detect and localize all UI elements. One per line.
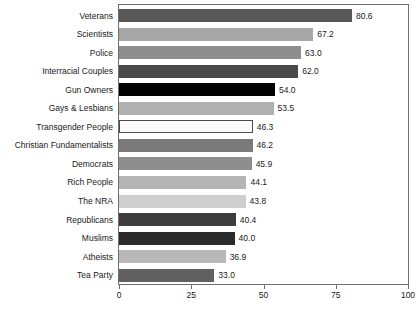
x-axis-tick-label: 25 [187, 291, 196, 300]
bar [119, 213, 236, 226]
bar-value-label: 36.9 [230, 253, 247, 262]
category-label: Veterans [0, 12, 113, 21]
bar [119, 83, 275, 96]
category-label: Democrats [0, 160, 113, 169]
bar-value-label: 46.2 [257, 141, 274, 150]
category-label: Christian Fundamentalists [0, 141, 113, 150]
category-label: Police [0, 49, 113, 58]
bar-value-label: 80.6 [356, 12, 373, 21]
category-label: The NRA [0, 197, 113, 206]
bar [119, 176, 246, 189]
category-label: Transgender People [0, 123, 113, 132]
bar-value-label: 62.0 [302, 67, 319, 76]
bar [119, 46, 301, 59]
bar-chart: VeteransScientistsPoliceInterracial Coup… [0, 0, 419, 311]
bar [119, 102, 274, 115]
category-label: Republicans [0, 216, 113, 225]
category-label: Tea Party [0, 271, 113, 280]
x-axis-tick [264, 285, 265, 289]
x-axis-tick-label: 50 [259, 291, 268, 300]
category-label: Gun Owners [0, 86, 113, 95]
x-axis-tick-label: 75 [331, 291, 340, 300]
bar [119, 28, 313, 41]
x-axis-tick [119, 285, 120, 289]
category-label: Rich People [0, 178, 113, 187]
bar-value-label: 40.0 [239, 234, 256, 243]
x-axis-tick-label: 100 [401, 291, 415, 300]
x-axis: 0255075100 [118, 285, 409, 311]
bar-value-label: 43.8 [250, 197, 267, 206]
category-label: Muslims [0, 234, 113, 243]
bar-value-label: 63.0 [305, 49, 322, 58]
category-label: Gays & Lesbians [0, 104, 113, 113]
category-label: Atheists [0, 253, 113, 262]
bar [119, 232, 235, 245]
x-axis-tick [408, 285, 409, 289]
bar [119, 195, 246, 208]
x-axis-tick [336, 285, 337, 289]
bar-value-label: 46.3 [257, 123, 274, 132]
bar-value-label: 54.0 [279, 86, 296, 95]
bar-value-label: 45.9 [256, 160, 273, 169]
bar-value-label: 67.2 [317, 30, 334, 39]
bar [119, 139, 253, 152]
bar [119, 120, 253, 133]
bar-value-label: 33.0 [218, 271, 235, 280]
x-axis-tick-label: 0 [117, 291, 122, 300]
bar-value-label: 40.4 [240, 216, 257, 225]
bar [119, 65, 298, 78]
bar [119, 250, 226, 263]
bar [119, 157, 252, 170]
bars-layer: 80.667.263.062.054.053.546.346.245.944.1… [119, 5, 408, 284]
bar-value-label: 53.5 [278, 104, 295, 113]
bar-value-label: 44.1 [250, 178, 267, 187]
bar [119, 269, 214, 282]
x-axis-tick [191, 285, 192, 289]
category-label: Interracial Couples [0, 67, 113, 76]
bar [119, 9, 352, 22]
category-label: Scientists [0, 30, 113, 39]
category-axis: VeteransScientistsPoliceInterracial Coup… [0, 4, 113, 285]
